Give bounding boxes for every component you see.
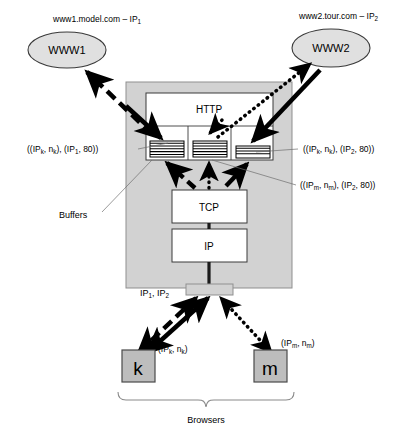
server-hostname-www1: www1.model.com – IP1 (52, 14, 142, 25)
ip-label: IP (204, 241, 214, 252)
browser-k[interactable]: k (122, 350, 155, 382)
buffer-right (236, 146, 270, 158)
arrow-browser-m-dotted (221, 298, 271, 352)
network-interface-bar (186, 284, 233, 295)
buffer-middle (193, 141, 227, 157)
network-diagram: www1.model.com – IP1 www2.tour.com – IP2… (0, 0, 405, 439)
www1-label: WWW1 (48, 44, 85, 56)
tcp-label: TCP (199, 202, 219, 213)
buffers-caption: Buffers (59, 210, 88, 220)
www2-label: WWW2 (312, 42, 349, 54)
browser-k-glyph: k (133, 358, 143, 379)
connection-label-right-bottom: ((IPm, nm), (IP2, 80)) (300, 180, 376, 191)
server-hostname-www2: www2.tour.com – IP2 (298, 11, 379, 22)
interface-ip-label: IP1, IP2 (140, 288, 170, 299)
browsers-caption: Browsers (187, 415, 225, 425)
browser-m-address: (IPm, nm) (281, 338, 315, 349)
browser-k-address: (IPk, nk) (158, 344, 188, 355)
connection-label-left: ((IPk, nk), (IP1, 80)) (27, 144, 98, 155)
http-label: HTTP (196, 104, 222, 115)
server-node-www2[interactable]: WWW2 (292, 29, 370, 67)
browser-m[interactable]: m (254, 350, 287, 382)
browsers-brace (118, 392, 294, 407)
server-node-www1[interactable]: WWW1 (28, 32, 106, 68)
browser-m-glyph: m (262, 358, 278, 379)
diagram-canvas: www1.model.com – IP1 www2.tour.com – IP2… (0, 0, 405, 439)
connection-label-right-top: ((IPk, nk), (IP2, 80)) (303, 144, 374, 155)
